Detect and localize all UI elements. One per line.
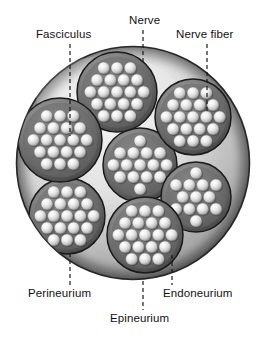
nerve-fiber: [161, 159, 173, 171]
nerve-fiber: [81, 134, 93, 146]
nerve-fiber: [41, 158, 53, 170]
nerve-fiber: [194, 99, 206, 111]
nerve-fiber: [41, 222, 53, 234]
nerve-fiber: [141, 171, 153, 183]
nerve-fiber: [127, 147, 139, 159]
nerve-fiber: [138, 86, 150, 98]
nerve-fiber: [159, 241, 171, 253]
nerve-fiber: [139, 205, 151, 217]
nerve-fiber: [160, 111, 172, 123]
nerve-fiber: [112, 229, 124, 241]
nerve-fiber: [41, 134, 53, 146]
nerve-fiber: [98, 110, 110, 122]
nerve-fiber: [98, 86, 110, 98]
nerve-fiber: [68, 198, 80, 210]
nerve-fiber: [41, 110, 53, 122]
nerve-fiber: [207, 123, 219, 135]
nerve-fiber: [61, 186, 73, 198]
nerve-fiber: [41, 198, 53, 210]
nerve-fiber: [74, 186, 86, 198]
nerve-fiber: [146, 217, 158, 229]
nerve-fiber: [210, 203, 222, 215]
nerve-fiber: [132, 217, 144, 229]
nerve-fiber: [187, 135, 199, 147]
nerve-fiber: [174, 111, 186, 123]
nerve-fiber: [119, 241, 131, 253]
nerve-fiber: [54, 158, 66, 170]
nerve-fiber: [183, 203, 195, 215]
label-endoneurium: Endoneurium: [163, 287, 233, 299]
nerve-fiber: [67, 110, 79, 122]
nerve-fiber: [203, 191, 215, 203]
nerve-fiber: [124, 86, 136, 98]
nerve-fiber: [34, 122, 46, 134]
nerve-fiber: [152, 205, 164, 217]
nerve-fiber: [61, 122, 73, 134]
nerve-fiber: [111, 110, 123, 122]
nerve-fiber: [114, 147, 126, 159]
nerve-fiber: [126, 229, 138, 241]
nerve-fiber: [194, 123, 206, 135]
nerve-fiber: [197, 179, 209, 191]
nerve-fiber: [34, 210, 46, 222]
nerve-fiber: [61, 146, 73, 158]
nerve-fiber: [141, 147, 153, 159]
nerve-fiber: [190, 215, 202, 227]
nerve-fiber: [139, 253, 151, 265]
nerve-fiber: [174, 135, 186, 147]
nerve-fiber: [81, 198, 93, 210]
nerve-fiber: [74, 122, 86, 134]
nerve-fiber: [54, 222, 66, 234]
nerve-fiber: [210, 179, 222, 191]
fascicle-left: [18, 98, 102, 182]
nerve-fiber: [134, 159, 146, 171]
nerve-fiber: [48, 210, 60, 222]
nerve-fiber: [98, 62, 110, 74]
nerve-fiber: [88, 210, 100, 222]
nerve-fiber: [200, 87, 212, 99]
nerve-fiber: [54, 198, 66, 210]
nerve-fiber: [68, 222, 80, 234]
label-nerve: Nerve: [129, 14, 160, 26]
nerve-fiber: [126, 253, 138, 265]
nerve-fiber: [47, 146, 59, 158]
nerve-fiber: [27, 134, 39, 146]
nerve-fiber: [74, 146, 86, 158]
nerve-fiber: [200, 135, 212, 147]
nerve-fiber: [170, 179, 182, 191]
nerve-fiber: [91, 98, 103, 110]
nerve-fiber: [119, 217, 131, 229]
label-nerve-fiber: Nerve fiber: [176, 28, 233, 40]
nerve-fiber: [177, 191, 189, 203]
nerve-fiber: [134, 183, 146, 195]
nerve-fiber: [180, 99, 192, 111]
nerve-fiber: [134, 135, 146, 147]
nerve-fiber: [166, 229, 178, 241]
nerve-fiber: [167, 123, 179, 135]
label-perineurium: Perineurium: [28, 287, 91, 299]
nerve-fiber: [183, 179, 195, 191]
nerve-fiber: [74, 234, 86, 246]
nerve-fiber: [187, 111, 199, 123]
nerve-fiber: [81, 222, 93, 234]
nerve-fiber: [154, 147, 166, 159]
nerve-fiber: [147, 159, 159, 171]
nerve-fiber: [126, 205, 138, 217]
nerve-cross-section-figure: Fasciculus Nerve Nerve fiber Perineurium…: [0, 0, 264, 338]
nerve-fiber: [121, 159, 133, 171]
nerve-fiber: [187, 87, 199, 99]
label-fasciculus: Fasciculus: [36, 28, 91, 40]
nerve-fiber: [167, 99, 179, 111]
nerve-fiber: [132, 241, 144, 253]
nerve-fiber: [131, 98, 143, 110]
nerve-fiber: [67, 158, 79, 170]
nerve-fiber: [61, 234, 73, 246]
nerve-fiber: [107, 159, 119, 171]
nerve-fiber: [131, 74, 143, 86]
nerve-fiber: [74, 210, 86, 222]
nerve-fiber: [104, 98, 116, 110]
nerve-fiber: [91, 74, 103, 86]
nerve-fiber: [197, 203, 209, 215]
nerve-fiber: [124, 110, 136, 122]
nerve-fiber: [207, 99, 219, 111]
